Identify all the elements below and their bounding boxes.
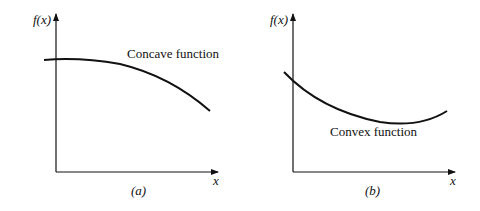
- panel-a-axes: [56, 14, 218, 172]
- panel-b-axes: [293, 14, 455, 172]
- panel-a-y-label: f(x): [33, 12, 51, 28]
- concave-curve: [44, 59, 210, 111]
- panel-b-caption: (b): [365, 183, 380, 199]
- panel-a-caption: (a): [131, 183, 146, 199]
- convex-curve: [284, 72, 447, 124]
- panel-a-x-label: x: [213, 173, 219, 189]
- panel-b-y-label: f(x): [270, 12, 288, 28]
- panel-a-curve-label: Concave function: [127, 46, 219, 62]
- panel-b-curve-label: Convex function: [330, 124, 417, 140]
- diagram-canvas: [0, 0, 480, 211]
- panel-b-x-label: x: [450, 173, 456, 189]
